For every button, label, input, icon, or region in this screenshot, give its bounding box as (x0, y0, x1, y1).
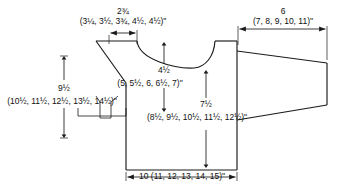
dim-label-shoulder-width: 2¾ (3¼, 3½, 3¾, 4½, 4½)" (80, 7, 167, 26)
dim-label-body-length: 9½ (58, 84, 70, 94)
side-length-primary: 7½ (200, 100, 212, 110)
bottom-width-primary: 10 (11, 12, 13, 14, 15)" (139, 172, 225, 182)
dim-label-armhole-depth-sizes: (5, 5½, 6, 6½, 7)" (117, 79, 182, 89)
dim-label-armhole-depth: 4½ (158, 66, 170, 76)
dim-label-side-length: 7½ (200, 100, 212, 110)
dim-sleeve-length (238, 26, 327, 60)
dim-label-bottom-width: 10 (11, 12, 13, 14, 15)" (139, 172, 225, 182)
armhole-depth-primary: 4½ (158, 66, 170, 76)
left-shoulder-diagonal (96, 41, 126, 83)
dim-label-sleeve-length: 6 (7, 8, 9, 10, 11)" (253, 7, 313, 26)
dim-label-side-length-sizes: (8½, 9½, 10½, 11½, 12½)" (147, 113, 247, 123)
body-length-sizes: (10½, 11½, 12½, 13½, 14½)" (7, 97, 117, 107)
sleeve-bottom-edge (237, 105, 327, 120)
dim-shoulder-width (109, 30, 137, 44)
armhole-depth-sizes: (5, 5½, 6, 6½, 7)" (117, 79, 182, 89)
dim-label-body-length-sizes: (10½, 11½, 12½, 13½, 14½)" (7, 97, 117, 107)
shoulder-width-sizes: (3¼, 3½, 3¾, 4½, 4½)" (80, 17, 167, 27)
side-length-sizes: (8½, 9½, 10½, 11½, 12½)" (147, 113, 247, 123)
sleeve-top-edge (237, 51, 327, 63)
neckline-curve (137, 41, 215, 68)
sleeve-length-sizes: (7, 8, 9, 10, 11)" (253, 17, 313, 27)
body-length-primary: 9½ (58, 84, 70, 94)
body-length-bracket (78, 108, 126, 116)
dim-armhole-depth (162, 42, 167, 112)
